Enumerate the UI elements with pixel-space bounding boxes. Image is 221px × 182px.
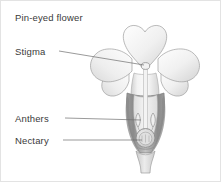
flower-cross-section-illustration [1, 1, 221, 182]
label-stigma: Stigma [15, 46, 45, 57]
label-nectary: Nectary [15, 135, 49, 146]
flower-diagram-figure: Pin-eyed flower [0, 0, 221, 182]
anther-right [151, 113, 156, 127]
stigma [141, 63, 149, 70]
style-body [144, 67, 148, 133]
pedicel [136, 151, 155, 173]
label-anthers: Anthers [15, 113, 49, 124]
